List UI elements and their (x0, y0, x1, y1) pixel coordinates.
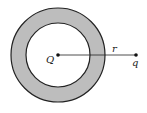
center-charge-label: Q (46, 54, 54, 65)
distance-label: r (112, 43, 118, 54)
test-charge-label: q (132, 57, 138, 68)
center-charge-dot (56, 53, 60, 57)
charged-shell-diagram: Q r q (0, 0, 147, 113)
